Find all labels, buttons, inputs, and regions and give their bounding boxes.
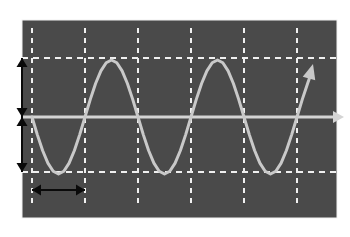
plot-area-background [22,20,337,218]
figure-canvas [0,0,350,237]
sine-wave-diagram [0,0,350,237]
